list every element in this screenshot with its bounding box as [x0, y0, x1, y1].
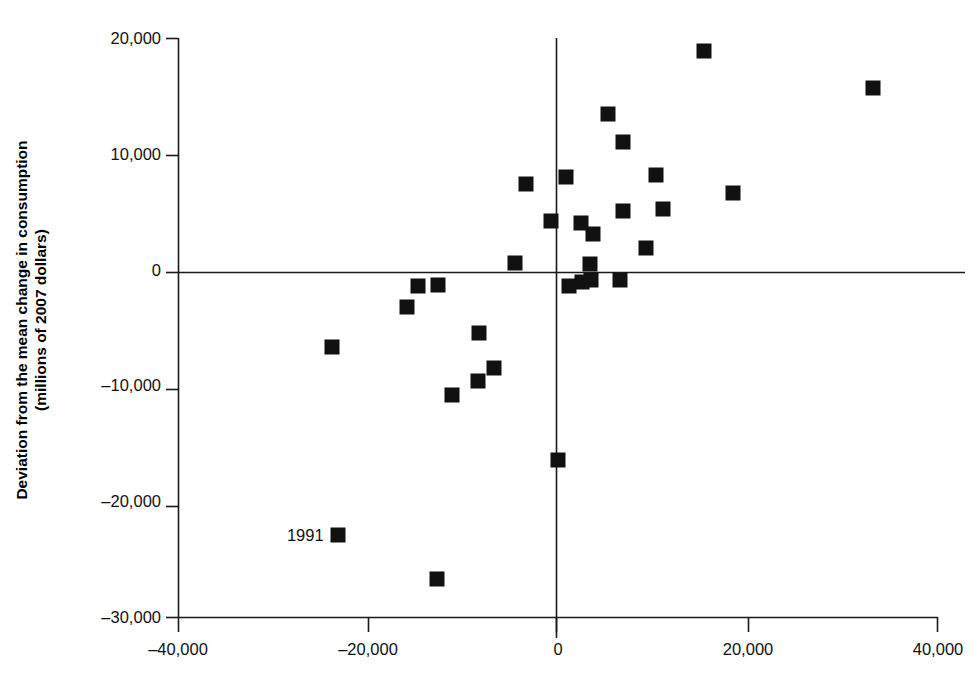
data-point: [586, 226, 601, 241]
y-tick-label: 0: [152, 260, 161, 279]
data-point: [725, 186, 740, 201]
plot-area: 20,00010,0000–10,000–20,000–30,000–40,00…: [0, 0, 976, 678]
x-tick-label: –20,000: [338, 640, 398, 659]
data-point: [558, 169, 573, 184]
data-point: [866, 80, 881, 95]
y-tick-label: –20,000: [101, 492, 161, 511]
data-point: [472, 326, 487, 341]
data-point: [639, 240, 654, 255]
x-tick-label: –40,000: [148, 640, 208, 659]
data-point: [615, 135, 630, 150]
data-point: [648, 167, 663, 182]
data-point: [487, 361, 502, 376]
y-tick-label: –10,000: [101, 376, 161, 395]
data-point: [471, 373, 486, 388]
data-point: [615, 203, 630, 218]
x-tick-label: 0: [553, 640, 562, 659]
y-tick-label: 20,000: [111, 29, 161, 48]
data-point: [583, 256, 598, 271]
scatter-chart-figure: Deviation from the mean change in consum…: [0, 0, 976, 678]
data-point: [431, 277, 446, 292]
data-point: [612, 273, 627, 288]
data-point: [518, 176, 533, 191]
data-point: [697, 43, 712, 58]
y-tick-label: –30,000: [101, 608, 161, 627]
data-point: [508, 255, 523, 270]
data-point: [324, 340, 339, 355]
data-point: [399, 299, 414, 314]
x-tick-label: 20,000: [723, 640, 773, 659]
data-point: [551, 452, 566, 467]
data-point: [584, 273, 599, 288]
data-point: [601, 107, 616, 122]
data-point: [430, 571, 445, 586]
data-point: [411, 278, 426, 293]
data-point: [444, 387, 459, 402]
data-point: [544, 213, 559, 228]
y-tick-label: 10,000: [111, 144, 161, 163]
data-point: [330, 527, 345, 542]
data-point: [656, 202, 671, 217]
x-tick-label: 40,000: [913, 640, 963, 659]
point-annotation: 1991: [287, 525, 324, 544]
